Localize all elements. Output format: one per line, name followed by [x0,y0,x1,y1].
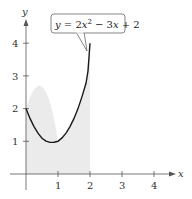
y-tick-label-4: 4 [12,38,18,49]
x-tick-label-1: 1 [55,180,61,191]
y-tick-label-1: 1 [12,136,18,147]
x-tick-label-3: 3 [119,180,125,191]
x-tick-label-2: 2 [87,180,93,191]
equation-label: y = 2x2 − 3x + 2 [54,18,140,30]
x-axis-label: x [178,168,184,179]
y-axis-label: y [21,6,28,17]
x-tick-label-4: 4 [151,180,157,191]
y-tick-label-2: 2 [12,103,18,114]
y-axis-arrow-icon [24,19,29,26]
chart-canvas: 1 2 3 4 1 2 3 4 x y y = 2x2 − 3x + 2 [0,0,192,199]
y-tick-label-3: 3 [12,71,18,82]
callout-pointer [76,32,87,51]
x-axis-arrow-icon [169,172,176,177]
